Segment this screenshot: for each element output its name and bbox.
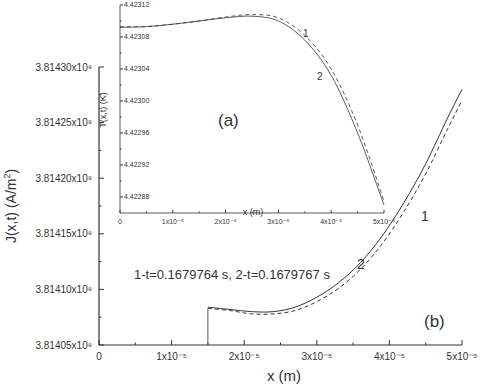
inset-y-axis-label: T(x,t) (K): [98, 92, 108, 128]
inset-curve-1-label: 1: [303, 28, 309, 39]
y-tick-label: 3.81425x10⁹: [35, 117, 92, 128]
y-tick-label: 4.42300: [124, 97, 149, 104]
main-x-axis-label: x (m): [267, 367, 301, 384]
inset-x-axis-label: x (m): [243, 207, 264, 217]
panel-label-b: (b): [424, 312, 445, 331]
x-tick-label: 4x10⁻⁵: [320, 218, 342, 225]
y-tick-label: 3.81420x10⁹: [35, 173, 92, 184]
main-y-axis-label: J(x,t) (A/m2): [2, 169, 19, 243]
panel-label-a: (a): [218, 111, 239, 130]
y-tick-label: 4.42308: [124, 33, 149, 40]
x-tick-label: 3x10⁻⁵: [267, 218, 289, 225]
x-tick-label: 1x10⁻⁵: [156, 351, 187, 362]
inset-curve-2-label: 2: [317, 71, 323, 82]
series-1-line: [120, 15, 384, 201]
series-2-line: [120, 16, 384, 205]
main-curve-1-label: 1: [421, 208, 429, 224]
inset-curves: [120, 15, 384, 205]
figure: 01x10⁻⁵2x10⁻⁵3x10⁻⁵4x10⁻⁵5x10⁻⁵3.81405x1…: [0, 0, 488, 391]
x-tick-label: 2x10⁻⁵: [215, 218, 237, 225]
main-curve-2-label: 2: [357, 256, 365, 272]
x-tick-label: 5x10⁻⁵: [447, 351, 478, 362]
x-tick-label: 5x10⁻⁵: [373, 218, 395, 225]
inset-axes: 01x10⁻⁵2x10⁻⁵3x10⁻⁵4x10⁻⁵5x10⁻⁵4.422884.…: [118, 1, 395, 225]
y-tick-label: 3.81430x10⁹: [35, 62, 92, 73]
y-tick-label: 4.42288: [124, 193, 149, 200]
y-tick-label: 3.81415x10⁹: [35, 228, 92, 239]
y-tick-label: 4.42304: [124, 65, 149, 72]
x-tick-label: 3x10⁻⁵: [301, 351, 332, 362]
x-tick-label: 2x10⁻⁵: [229, 351, 260, 362]
y-tick-label: 3.81405x10⁹: [35, 340, 92, 351]
x-tick-label: 1x10⁻⁵: [162, 218, 184, 225]
time-annotation: 1-t=0.1679764 s, 2-t=0.1679767 s: [134, 267, 330, 282]
x-tick-label: 0: [96, 351, 102, 362]
y-tick-label: 3.81410x10⁹: [35, 284, 92, 295]
x-tick-label: 4x10⁻⁵: [374, 351, 405, 362]
y-tick-label: 4.42292: [124, 161, 149, 168]
y-tick-label: 4.42312: [124, 1, 149, 8]
y-tick-label: 4.42296: [124, 129, 149, 136]
x-tick-label: 0: [118, 218, 122, 225]
